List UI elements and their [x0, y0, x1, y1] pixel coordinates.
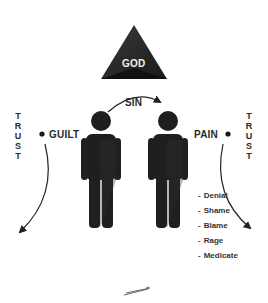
sin-label: SIN: [125, 97, 142, 108]
response-label: Denial: [204, 191, 228, 200]
pain-label: PAIN: [194, 129, 218, 140]
response-item: -Shame: [198, 203, 238, 218]
response-label: Shame: [204, 206, 230, 215]
god-triangle-icon: [101, 25, 167, 79]
response-item: -Blame: [198, 218, 238, 233]
responses-list: -Denial -Shame -Blame -Rage -Medicate: [198, 188, 238, 263]
response-item: -Rage: [198, 233, 238, 248]
guilt-dot-icon: [39, 131, 44, 136]
god-label: GOD: [122, 58, 145, 69]
response-item: -Denial: [198, 188, 238, 203]
response-label: Blame: [204, 221, 228, 230]
left-trust-label: T R U S T: [13, 111, 23, 161]
response-item: -Medicate: [198, 248, 238, 263]
signature-scribble-icon: [124, 287, 150, 295]
pain-dot-icon: [225, 131, 230, 136]
response-label: Medicate: [204, 251, 238, 260]
right-trust-label: T R U S T: [244, 111, 254, 161]
response-label: Rage: [204, 236, 224, 245]
left-trust-arrow-icon: [20, 144, 48, 232]
guilt-label: GUILT: [49, 129, 79, 140]
